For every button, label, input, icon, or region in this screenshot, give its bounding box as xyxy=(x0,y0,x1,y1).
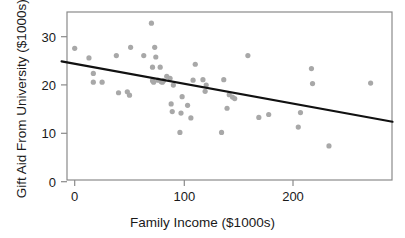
data-point xyxy=(221,77,226,82)
y-axis-ticks xyxy=(61,37,67,182)
data-point xyxy=(193,62,198,67)
y-axis-title: Gift Aid From University ($1000s) xyxy=(15,0,29,199)
regression-line xyxy=(62,61,393,121)
data-point xyxy=(150,65,155,70)
data-points-layer xyxy=(72,21,373,149)
data-point xyxy=(127,93,132,98)
data-point xyxy=(169,101,174,106)
x-axis-title: Family Income ($1000s) xyxy=(0,216,405,230)
data-point xyxy=(256,115,261,120)
data-point xyxy=(232,96,237,101)
data-point xyxy=(180,94,185,99)
data-point xyxy=(326,143,331,148)
y-tick-label-10: 10 xyxy=(28,127,56,140)
data-point xyxy=(86,55,91,60)
data-point xyxy=(245,53,250,58)
plot-canvas xyxy=(0,0,405,238)
data-point xyxy=(185,103,190,108)
data-point xyxy=(171,82,176,87)
data-point xyxy=(141,53,146,58)
data-point xyxy=(100,80,105,85)
data-point xyxy=(309,66,314,71)
data-point xyxy=(298,110,303,115)
data-point xyxy=(152,45,157,50)
data-point xyxy=(116,90,121,95)
data-point xyxy=(91,71,96,76)
data-point xyxy=(266,112,271,117)
data-point xyxy=(188,115,193,120)
data-point xyxy=(149,21,154,26)
data-point xyxy=(310,81,315,86)
x-tick-label-200: 200 xyxy=(282,190,304,203)
data-point xyxy=(128,45,133,50)
data-point xyxy=(219,130,224,135)
data-point xyxy=(200,77,205,82)
data-point xyxy=(190,78,195,83)
y-tick-label-20: 20 xyxy=(28,78,56,91)
x-tick-label-0: 0 xyxy=(71,190,78,203)
data-point xyxy=(170,109,175,114)
x-axis-ticks xyxy=(75,180,293,186)
scatter-plot-figure: 30 20 10 0 0 100 200 Family Income ($100… xyxy=(0,0,405,238)
data-point xyxy=(153,54,158,59)
data-point xyxy=(114,53,119,58)
data-point xyxy=(91,80,96,85)
data-point xyxy=(296,124,301,129)
data-point xyxy=(203,89,208,94)
y-tick-label-0: 0 xyxy=(28,175,56,188)
data-point xyxy=(158,65,163,70)
data-point xyxy=(177,130,182,135)
data-point xyxy=(368,81,373,86)
data-point xyxy=(178,110,183,115)
x-tick-label-100: 100 xyxy=(173,190,195,203)
data-point xyxy=(224,106,229,111)
data-point xyxy=(72,46,77,51)
y-tick-label-30: 30 xyxy=(28,30,56,43)
